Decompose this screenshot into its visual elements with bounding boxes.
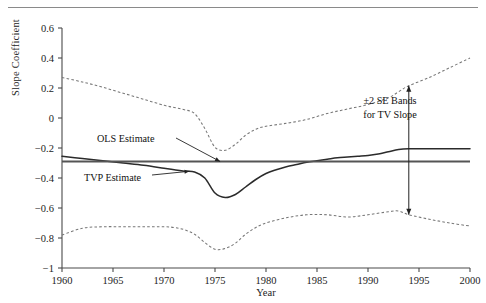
y-tick-label: 0 xyxy=(49,113,54,124)
tvp-estimate-label: TVP Estimate xyxy=(84,172,142,183)
x-tick-label: 1990 xyxy=(358,275,379,286)
y-axis-tick-labels: 0.60.40.20−0.2−0.4−0.6−0.8−1 xyxy=(35,23,55,274)
y-tick-label: −0.6 xyxy=(35,203,54,214)
x-tick-label: 1975 xyxy=(205,275,226,286)
chart-svg: 0.60.40.20−0.2−0.4−0.6−0.8−1 19601965197… xyxy=(0,0,486,303)
y-tick-label: −0.4 xyxy=(35,173,55,184)
annotation-ols: OLS Estimate xyxy=(97,133,220,162)
y-tick-label: −1 xyxy=(43,263,54,274)
x-tick-label: 1965 xyxy=(103,275,124,286)
series-lower-se-band xyxy=(62,211,470,250)
annotation-se-bands: ±2 SE Bands for TV Slope xyxy=(363,86,417,215)
x-tick-label: 2000 xyxy=(460,275,481,286)
x-axis-tick-labels: 196019651970197519801985199019952000 xyxy=(52,275,481,286)
y-tick-label: −0.8 xyxy=(35,233,54,244)
x-tick-label: 1995 xyxy=(409,275,430,286)
x-tick-label: 1985 xyxy=(307,275,328,286)
x-axis-title: Year xyxy=(256,287,276,298)
x-axis-ticks xyxy=(62,268,470,272)
y-tick-label: 0.6 xyxy=(41,23,54,34)
chart-plot-area: Slope Coefficient 0.60.40.20−0.2−0.4−0.6… xyxy=(0,0,486,303)
annotation-tvp: TVP Estimate xyxy=(84,170,190,183)
x-tick-label: 1970 xyxy=(154,275,175,286)
y-tick-label: −0.2 xyxy=(35,143,54,154)
x-tick-label: 1960 xyxy=(52,275,73,286)
x-tick-label: 1980 xyxy=(256,275,277,286)
ols-estimate-label: OLS Estimate xyxy=(97,133,155,144)
y-tick-label: 0.2 xyxy=(41,83,54,94)
y-axis-ticks xyxy=(58,28,62,268)
figure-root: Slope Coefficient 0.60.40.20−0.2−0.4−0.6… xyxy=(0,0,486,303)
y-tick-label: 0.4 xyxy=(41,53,55,64)
